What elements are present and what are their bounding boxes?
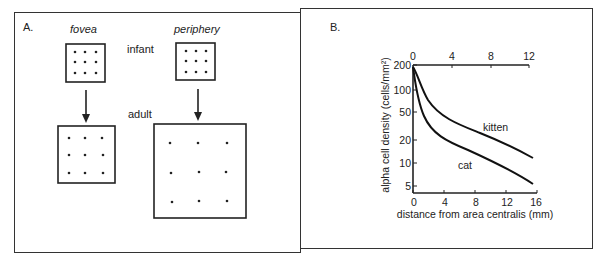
bottom-tick-0: 0 [411, 196, 417, 208]
bottom-tick-16: 16 [530, 196, 542, 208]
y-tick-5: 5 [405, 180, 411, 192]
x-axis-title: distance from area centralis (mm) [397, 208, 553, 220]
kitten-curve [413, 67, 533, 158]
y-tick-100: 100 [393, 84, 411, 96]
kitten-label: kitten [483, 121, 508, 133]
bottom-tick-4: 4 [442, 196, 448, 208]
panel-a-diagram [0, 0, 300, 261]
cat-label: cat [458, 159, 472, 171]
y-tick-10: 10 [399, 157, 411, 169]
y-axis-title: alpha cell density (cells/mm²) [379, 57, 391, 192]
y-tick-200: 200 [393, 59, 411, 71]
periphery-arrowhead-icon [194, 112, 202, 121]
bottom-tick-8: 8 [473, 196, 479, 208]
y-tick-20: 20 [399, 134, 411, 146]
top-tick-12: 12 [523, 50, 535, 62]
top-tick-4: 4 [449, 50, 455, 62]
adult-periphery-grid [154, 124, 246, 218]
cat-curve [413, 67, 533, 184]
top-tick-8: 8 [488, 50, 494, 62]
adult-fovea-grid [58, 126, 115, 183]
y-tick-50: 50 [399, 106, 411, 118]
density-chart: 0 4 8 12 200 100 50 20 10 5 0 4 8 12 16 … [300, 0, 599, 261]
fovea-arrowhead-icon [82, 114, 90, 123]
bottom-tick-12: 12 [501, 196, 513, 208]
